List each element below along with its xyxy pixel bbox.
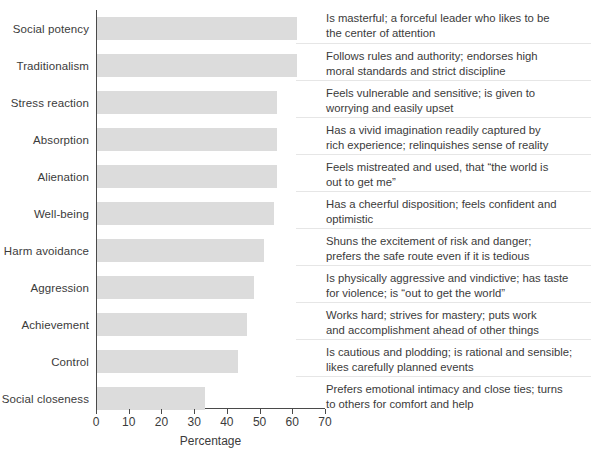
description-row: Follows rules and authority; endorses hi…: [296, 43, 591, 80]
description-text: Is physically aggressive and vindictive;…: [326, 271, 587, 300]
bar: [97, 54, 297, 77]
description-row: Shuns the excitement of risk and danger;…: [296, 228, 591, 265]
description-line: worrying and easily upset: [326, 101, 587, 116]
bar: [97, 239, 264, 262]
bar: [97, 91, 277, 114]
description-text: Feels vulnerable and sensitive; is given…: [326, 86, 587, 115]
bar-row: Social potency: [0, 10, 330, 47]
description-line: Feels mistreated and used, that “the wor…: [326, 160, 587, 175]
description-row: Is cautious and plodding; is rational an…: [296, 339, 591, 376]
bar-row: Harm avoidance: [0, 232, 330, 269]
bar: [97, 350, 238, 373]
description-text: Shuns the excitement of risk and danger;…: [326, 234, 587, 263]
x-tick: [194, 409, 195, 414]
category-label: Harm avoidance: [0, 232, 89, 269]
description-text: Is cautious and plodding; is rational an…: [326, 345, 587, 374]
x-tick: [96, 409, 97, 414]
description-line: Is cautious and plodding; is rational an…: [326, 345, 587, 360]
description-line: to others for comfort and help: [326, 397, 587, 412]
description-line: the center of attention: [326, 26, 587, 41]
description-line: Prefers emotional intimacy and close tie…: [326, 382, 587, 397]
description-line: optimistic: [326, 212, 587, 227]
description-line: moral standards and strict discipline: [326, 64, 587, 79]
bar-chart-area: Social potencyTraditionalismStress react…: [0, 0, 330, 457]
description-column: Is masterful; a forceful leader who like…: [296, 0, 591, 457]
x-axis-title: Percentage: [96, 434, 325, 448]
description-row: Works hard; strives for mastery; puts wo…: [296, 302, 591, 339]
x-tick: [227, 409, 228, 414]
bar-row: Control: [0, 343, 330, 380]
description-row: Prefers emotional intimacy and close tie…: [296, 376, 591, 413]
description-line: Has a vivid imagination readily captured…: [326, 123, 587, 138]
x-tick: [260, 409, 261, 414]
category-label: Well-being: [0, 195, 89, 232]
bar-row: Achievement: [0, 306, 330, 343]
bar: [97, 387, 205, 410]
description-row: Is physically aggressive and vindictive;…: [296, 265, 591, 302]
bar-row: Stress reaction: [0, 84, 330, 121]
description-text: Has a vivid imagination readily captured…: [326, 123, 587, 152]
description-line: Is physically aggressive and vindictive;…: [326, 271, 587, 286]
bar-row: Absorption: [0, 121, 330, 158]
bar: [97, 202, 274, 225]
description-line: Has a cheerful disposition; feels confid…: [326, 197, 587, 212]
category-label: Aggression: [0, 269, 89, 306]
description-line: and accomplishment ahead of other things: [326, 323, 587, 338]
description-line: Is masterful; a forceful leader who like…: [326, 11, 587, 26]
x-tick: [292, 409, 293, 414]
bar: [97, 17, 297, 40]
category-label: Stress reaction: [0, 84, 89, 121]
description-row: Is masterful; a forceful leader who like…: [296, 6, 591, 43]
category-label: Social potency: [0, 10, 89, 47]
description-row: Feels vulnerable and sensitive; is given…: [296, 80, 591, 117]
category-label: Traditionalism: [0, 47, 89, 84]
description-text: Feels mistreated and used, that “the wor…: [326, 160, 587, 189]
description-text: Prefers emotional intimacy and close tie…: [326, 382, 587, 411]
description-line: for violence; is “out to get the world”: [326, 286, 587, 301]
bar-row: Social closeness: [0, 380, 330, 417]
category-label: Social closeness: [0, 380, 89, 417]
description-line: likes carefully planned events: [326, 360, 587, 375]
description-row: Has a cheerful disposition; feels confid…: [296, 191, 591, 228]
bar: [97, 165, 277, 188]
x-tick: [161, 409, 162, 414]
category-label: Absorption: [0, 121, 89, 158]
bar: [97, 276, 254, 299]
description-line: Works hard; strives for mastery; puts wo…: [326, 308, 587, 323]
x-tick: [129, 409, 130, 414]
description-line: prefers the safe route even if it is ted…: [326, 249, 587, 264]
description-line: Feels vulnerable and sensitive; is given…: [326, 86, 587, 101]
description-row: Feels mistreated and used, that “the wor…: [296, 154, 591, 191]
description-text: Is masterful; a forceful leader who like…: [326, 11, 587, 40]
bar: [97, 128, 277, 151]
category-label: Control: [0, 343, 89, 380]
description-line: Shuns the excitement of risk and danger;: [326, 234, 587, 249]
bar-row: Alienation: [0, 158, 330, 195]
category-label: Alienation: [0, 158, 89, 195]
bar-row: Traditionalism: [0, 47, 330, 84]
description-text: Works hard; strives for mastery; puts wo…: [326, 308, 587, 337]
description-text: Has a cheerful disposition; feels confid…: [326, 197, 587, 226]
description-row: Has a vivid imagination readily captured…: [296, 117, 591, 154]
description-text: Follows rules and authority; endorses hi…: [326, 49, 587, 78]
bar-row: Aggression: [0, 269, 330, 306]
description-line: Follows rules and authority; endorses hi…: [326, 49, 587, 64]
description-line: rich experience; relinquishes sense of r…: [326, 138, 587, 153]
bar: [97, 313, 247, 336]
description-line: out to get me”: [326, 175, 587, 190]
chart-figure: Social potencyTraditionalismStress react…: [0, 0, 591, 457]
bar-row: Well-being: [0, 195, 330, 232]
category-label: Achievement: [0, 306, 89, 343]
